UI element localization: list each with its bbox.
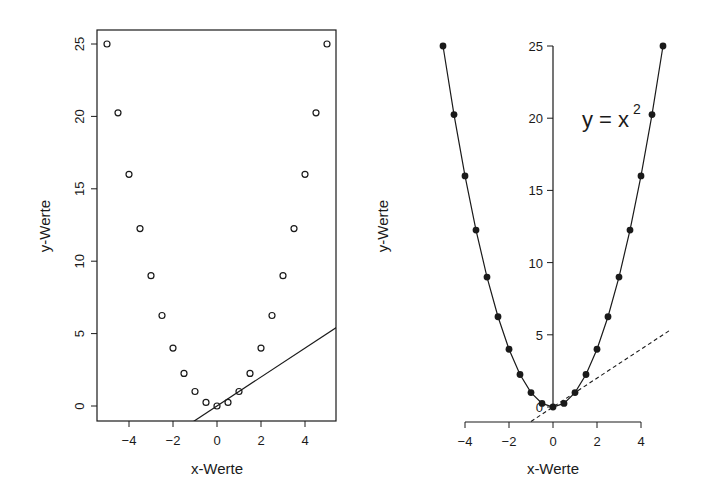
equation-annotation: y = x [582,107,629,132]
y-tick-label: 15 [529,183,543,198]
data-point [638,173,645,180]
data-point [302,171,308,177]
data-point [627,227,634,234]
x-tick-label: 0 [213,433,220,448]
x-axis-label: x-Werte [527,460,579,477]
data-point [115,110,121,116]
data-point [225,399,231,405]
data-point [126,171,132,177]
data-point [572,389,579,396]
data-point [484,274,491,281]
data-point [594,346,601,353]
data-point [280,273,286,279]
data-point [451,111,458,118]
data-point [462,173,469,180]
data-point [148,273,154,279]
data-point [159,313,165,319]
data-point [258,345,264,351]
x-tick-label: −2 [502,434,517,449]
data-point [104,41,110,47]
data-point [247,370,253,376]
y-tick-label: 20 [529,111,543,126]
data-point [203,399,209,405]
data-point [170,345,176,351]
x-tick-label: 2 [257,433,264,448]
data-point [605,313,612,320]
x-tick-label: 0 [549,434,556,449]
y-tick-label: 25 [529,39,543,54]
y-tick-label: 10 [529,256,543,271]
x-tick-label: 2 [593,434,600,449]
data-point [649,111,656,118]
data-point [324,41,330,47]
y-tick-label: 15 [72,182,87,196]
x-tick-label: −4 [458,434,473,449]
data-point [517,371,524,378]
right-line-plot: 0510152025−4−2024x-Wertey-Wertey = x2 [374,39,670,477]
data-point [313,110,319,116]
y-tick-label: 5 [72,330,87,337]
x-tick-label: 4 [637,434,644,449]
left-scatter-plot: 0510152025−4−2024x-Wertey-Werte [36,30,349,477]
data-point [269,313,275,319]
data-point [440,43,447,50]
y-tick-label: 10 [72,254,87,268]
data-point [181,370,187,376]
data-point [506,346,513,353]
data-point [495,313,502,320]
figure: 0510152025−4−2024x-Wertey-Werte 05101520… [0,0,702,497]
data-point [539,400,546,407]
y-axis-label: y-Werte [374,200,391,252]
data-point [616,274,623,281]
data-point [192,389,198,395]
equation-superscript: 2 [633,101,641,117]
data-point [561,400,568,407]
data-point [528,389,535,396]
y-tick-label: 0 [72,402,87,409]
data-point [660,43,667,50]
y-tick-label: 5 [536,328,543,343]
data-point [291,226,297,232]
data-point [583,371,590,378]
y-axis-label: y-Werte [36,200,53,252]
data-point [550,404,557,411]
x-axis-label: x-Werte [191,460,243,477]
data-point [137,226,143,232]
x-tick-label: −4 [122,433,137,448]
y-tick-label: 20 [72,109,87,123]
plot-box [97,30,336,421]
y-tick-label: 25 [72,37,87,51]
x-tick-label: −2 [166,433,181,448]
data-point [473,227,480,234]
x-tick-label: 4 [301,433,308,448]
